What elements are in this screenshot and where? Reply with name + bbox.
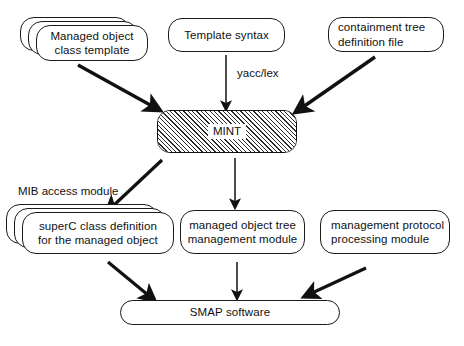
edge-containment-to-mint [303,57,375,107]
edge-label-yacc-lex: yacc/lex [237,67,279,79]
node-label-line-2: for the managed object [38,233,158,247]
edge-protocol-module-to-smap [312,268,366,293]
node-label-line-1: Template syntax [184,28,269,42]
node-managed-object-tree-management-module[interactable]: managed object tree management module [180,210,305,254]
edge-superc-to-smap [108,262,148,295]
node-label-mint: MINT [208,124,246,139]
node-label-line-1: superC class definition [39,219,157,233]
node-smap-software[interactable]: SMAP software [120,300,340,325]
diagram-canvas: Managed object class template Template s… [0,0,464,346]
node-label-line-1: management protocol [331,218,444,232]
node-label-line-2: definition file [338,35,403,49]
node-label-line-2: management module [188,232,298,246]
node-managed-object-class-template[interactable]: Managed object class template [36,25,148,61]
node-template-syntax[interactable]: Template syntax [168,18,285,52]
node-superc-class-definition[interactable]: superC class definition for the managed … [22,212,174,254]
node-label-line-1: containment tree [338,20,425,34]
node-label-line-1: Managed object [50,29,133,43]
node-label-line-1: managed object tree [189,218,296,232]
node-management-protocol-processing-module[interactable]: management protocol processing module [320,210,450,254]
node-label-line-2: class template [55,43,130,57]
edge-label-mib-access-module: MIB access module [18,185,118,197]
edge-template-to-mint [78,65,152,106]
node-label-smap-software: SMAP software [190,305,270,319]
node-mint[interactable]: MINT [157,110,297,153]
node-containment-tree-definition-file[interactable]: containment tree definition file [328,17,444,52]
edge-mint-to-superc [113,160,162,206]
node-label-line-2: processing module [331,232,429,246]
